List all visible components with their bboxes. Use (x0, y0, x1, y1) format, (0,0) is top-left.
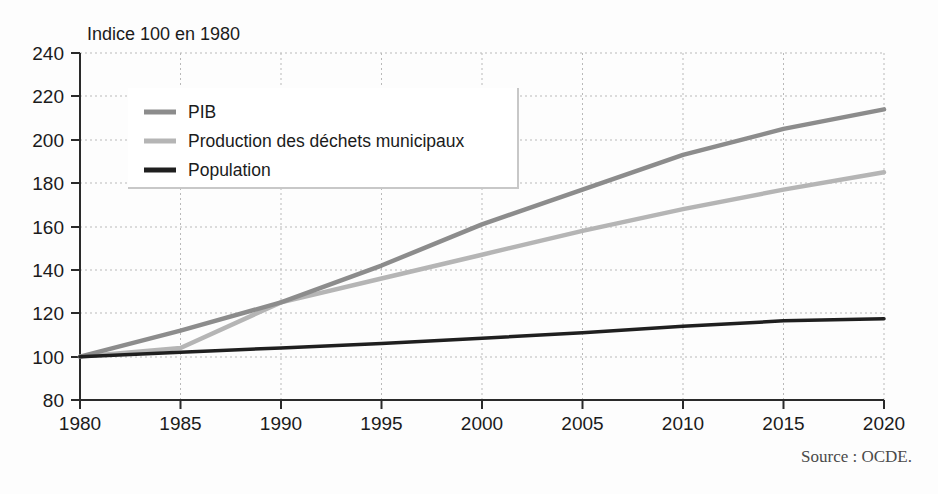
x-tick-label: 1985 (159, 413, 201, 434)
line-chart: 80 100 120 140 160 180 200 220 240 1980 … (0, 0, 938, 494)
x-tick-label: 2015 (762, 413, 804, 434)
y-tick-marks (71, 53, 80, 400)
legend-label-production-dechets: Production des déchets municipaux (188, 131, 465, 151)
y-tick-label: 80 (43, 390, 64, 411)
y-tick-label: 140 (32, 260, 64, 281)
x-tick-label: 2010 (662, 413, 704, 434)
x-tick-label: 1995 (360, 413, 402, 434)
y-tick-label: 160 (32, 217, 64, 238)
y-tick-label: 200 (32, 130, 64, 151)
legend-label-population: Population (188, 160, 271, 180)
y-tick-label: 220 (32, 86, 64, 107)
y-axis-title: Indice 100 en 1980 (87, 24, 240, 44)
y-tick-label: 180 (32, 173, 64, 194)
source-note: Source : OCDE. (801, 447, 912, 466)
x-tick-label: 1990 (260, 413, 302, 434)
x-tick-label: 2005 (561, 413, 603, 434)
x-tick-labels: 1980 1985 1990 1995 2000 2005 2010 2015 … (59, 413, 905, 434)
x-tick-label: 1980 (59, 413, 101, 434)
y-tick-label: 240 (32, 43, 64, 64)
x-tick-label: 2000 (461, 413, 503, 434)
chart-container: 80 100 120 140 160 180 200 220 240 1980 … (0, 0, 938, 494)
legend: PIB Production des déchets municipaux Po… (128, 88, 518, 188)
y-tick-label: 120 (32, 303, 64, 324)
x-tick-marks (80, 400, 884, 409)
y-tick-label: 100 (32, 347, 64, 368)
legend-label-pib: PIB (188, 102, 216, 122)
x-tick-label: 2020 (863, 413, 905, 434)
y-tick-labels: 80 100 120 140 160 180 200 220 240 (32, 43, 64, 411)
